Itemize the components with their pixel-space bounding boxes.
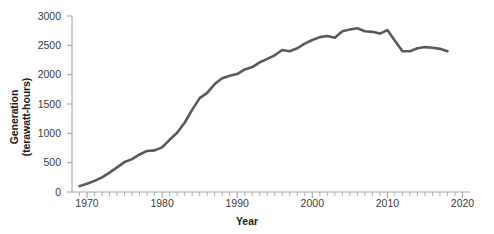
x-tick-label: 2020 xyxy=(439,198,485,209)
y-axis-tick-marks xyxy=(67,16,72,192)
nuclear-generation-line-chart: Generation (terawatt-hours) Year 0500100… xyxy=(0,0,494,234)
y-tick-label: 1500 xyxy=(21,99,61,110)
x-tick-label: 2000 xyxy=(289,198,335,209)
y-tick-label: 2500 xyxy=(21,40,61,51)
x-tick-label: 2010 xyxy=(364,198,410,209)
generation-data-line xyxy=(80,28,448,186)
x-tick-label: 1970 xyxy=(64,198,110,209)
y-tick-label: 2000 xyxy=(21,69,61,80)
y-tick-label: 500 xyxy=(21,157,61,168)
y-tick-label: 1000 xyxy=(21,128,61,139)
axis-lines xyxy=(72,16,470,192)
y-tick-label: 3000 xyxy=(21,11,61,22)
y-tick-label: 0 xyxy=(21,187,61,198)
x-tick-label: 1980 xyxy=(139,198,185,209)
x-tick-label: 1990 xyxy=(214,198,260,209)
